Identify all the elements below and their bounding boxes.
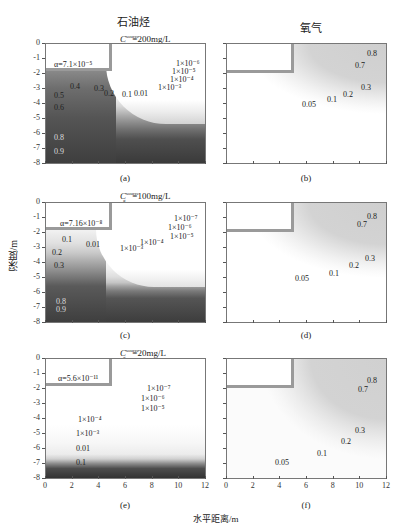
x-tick-mark	[152, 320, 153, 323]
x-tick-mark	[205, 476, 206, 479]
y-tick-mark	[42, 247, 45, 248]
y-tick-mark	[223, 232, 226, 233]
x-tick-label: 2	[245, 482, 261, 490]
y-tick-mark	[223, 262, 226, 263]
y-tick-mark	[42, 277, 45, 278]
tank-region	[227, 359, 294, 388]
x-tick-label: 0	[37, 482, 53, 490]
y-tick-mark	[223, 148, 226, 149]
y-tick-mark	[223, 388, 226, 389]
y-tick-mark	[223, 358, 226, 359]
x-tick-label: 6	[117, 482, 133, 490]
y-tick-label: -5	[26, 273, 40, 281]
y-tick-label: -6	[26, 444, 40, 452]
x-tick-mark	[125, 320, 126, 323]
y-tick-mark	[42, 292, 45, 293]
y-tick-label: -8	[26, 318, 40, 326]
y-tick-mark	[42, 262, 45, 263]
x-tick-mark	[178, 320, 179, 323]
y-tick-mark	[223, 133, 226, 134]
y-tick-mark	[223, 43, 226, 44]
y-tick-label: -5	[26, 114, 40, 122]
y-tick-mark	[223, 88, 226, 89]
x-tick-mark	[333, 161, 334, 164]
y-tick-label: -8	[26, 474, 40, 482]
y-tick-mark	[42, 388, 45, 389]
x-tick-mark	[72, 161, 73, 164]
y-tick-mark	[223, 118, 226, 119]
x-tick-mark	[98, 161, 99, 164]
x-tick-label: 4	[271, 482, 287, 490]
panel-label-c: (c)	[115, 330, 135, 340]
y-tick-mark	[223, 73, 226, 74]
x-tick-label: 8	[144, 482, 160, 490]
x-axis-label: 水平距离/m	[193, 512, 239, 524]
y-tick-mark	[42, 202, 45, 203]
y-tick-mark	[223, 418, 226, 419]
y-tick-mark	[223, 292, 226, 293]
y-tick-label: -2	[26, 69, 40, 77]
x-tick-mark	[359, 161, 360, 164]
y-tick-label: -5	[26, 429, 40, 437]
tank-region	[227, 203, 294, 232]
x-tick-mark	[306, 320, 307, 323]
plot-panel-d: 0.8 0.7 0.3 0.2 0.1 0.05	[226, 202, 387, 323]
y-tick-mark	[42, 403, 45, 404]
y-tick-label: -7	[26, 459, 40, 467]
y-tick-label: 0	[26, 198, 40, 206]
panel-label-f: (f)	[296, 500, 316, 510]
y-tick-label: -7	[26, 144, 40, 152]
y-tick-label: -6	[26, 129, 40, 137]
plot-panel-e: α=5.6×10⁻¹¹ 1×10⁻⁴ 1×10⁻³ 0.01 0.1 1×10⁻…	[45, 358, 206, 479]
y-tick-label: 0	[26, 354, 40, 362]
y-tick-mark	[42, 103, 45, 104]
y-tick-mark	[223, 307, 226, 308]
col-title-oxygen: 氧气	[300, 24, 322, 33]
y-tick-mark	[42, 358, 45, 359]
x-tick-mark	[333, 476, 334, 479]
y-tick-label: -4	[26, 258, 40, 266]
x-tick-mark	[45, 161, 46, 164]
plot-panel-c: α=7.16×10⁻⁸ 0.9 0.8 0.3 0.2 0.1 0.01 1×1…	[45, 202, 206, 323]
x-tick-mark	[72, 476, 73, 479]
x-tick-label: 12	[378, 482, 394, 490]
x-tick-mark	[152, 161, 153, 164]
y-tick-mark	[42, 118, 45, 119]
x-tick-mark	[178, 476, 179, 479]
y-tick-label: -4	[26, 414, 40, 422]
x-tick-mark	[279, 320, 280, 323]
y-tick-mark	[223, 247, 226, 248]
x-tick-mark	[205, 320, 206, 323]
y-tick-label: -1	[26, 213, 40, 221]
y-tick-mark	[223, 373, 226, 374]
y-tick-mark	[223, 103, 226, 104]
y-tick-mark	[42, 148, 45, 149]
x-tick-mark	[45, 320, 46, 323]
x-tick-label: 6	[298, 482, 314, 490]
y-tick-mark	[42, 43, 45, 44]
x-tick-mark	[386, 476, 387, 479]
y-tick-mark	[42, 73, 45, 74]
y-tick-mark	[223, 217, 226, 218]
x-tick-mark	[226, 320, 227, 323]
x-tick-mark	[306, 161, 307, 164]
x-tick-mark	[253, 320, 254, 323]
x-tick-mark	[205, 161, 206, 164]
x-tick-mark	[226, 161, 227, 164]
y-tick-label: -6	[26, 288, 40, 296]
x-tick-mark	[226, 476, 227, 479]
y-tick-label: -1	[26, 54, 40, 62]
y-tick-label: 0	[26, 39, 40, 47]
x-tick-mark	[386, 320, 387, 323]
x-tick-label: 4	[90, 482, 106, 490]
x-tick-mark	[333, 320, 334, 323]
x-tick-label: 0	[218, 482, 234, 490]
x-tick-mark	[98, 476, 99, 479]
y-tick-mark	[42, 448, 45, 449]
x-tick-label: 10	[170, 482, 186, 490]
y-tick-mark	[223, 277, 226, 278]
x-tick-mark	[306, 476, 307, 479]
y-tick-label: -2	[26, 384, 40, 392]
x-tick-mark	[125, 476, 126, 479]
y-tick-label: -4	[26, 99, 40, 107]
